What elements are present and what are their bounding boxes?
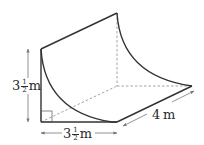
height-label: 312m [12, 79, 41, 94]
length-label: 4 m [152, 108, 175, 121]
width-fraction-den: 2 [72, 135, 78, 142]
height-unit: m [29, 78, 41, 93]
length-value: 4 [152, 107, 160, 122]
width-unit: m [80, 126, 92, 141]
height-fraction-den: 2 [21, 87, 27, 94]
length-unit: m [163, 107, 175, 122]
hidden-edges [41, 13, 192, 122]
width-label: 312m [63, 127, 92, 142]
length-arrow-low [123, 114, 147, 126]
width-fraction: 12 [72, 127, 78, 142]
visible-edges [41, 13, 192, 122]
right-angle-marker [41, 111, 52, 122]
prism-diagram [0, 0, 204, 145]
height-whole: 3 [12, 78, 20, 93]
height-fraction: 12 [21, 79, 27, 94]
width-whole: 3 [63, 126, 71, 141]
length-arrow-high [172, 91, 194, 102]
